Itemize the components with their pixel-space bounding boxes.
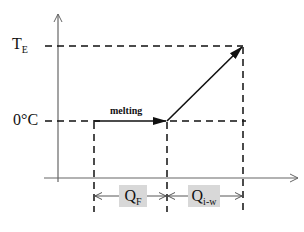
melting-label: melting (110, 105, 142, 116)
te-label: TE (12, 35, 28, 55)
zero-c-label: 0°C (13, 111, 38, 129)
qf-label-sub: F (136, 196, 142, 207)
te-label-sub: E (22, 44, 28, 55)
heating-arrow (167, 47, 242, 121)
qiw-label: Qi-w (188, 185, 220, 207)
te-label-main: T (12, 35, 22, 52)
qiw-label-sub: i-w (203, 196, 216, 207)
phase-change-diagram (0, 0, 304, 232)
qf-label-main: Q (124, 187, 136, 204)
qiw-label-main: Q (192, 187, 204, 204)
qf-label: QF (119, 185, 147, 207)
